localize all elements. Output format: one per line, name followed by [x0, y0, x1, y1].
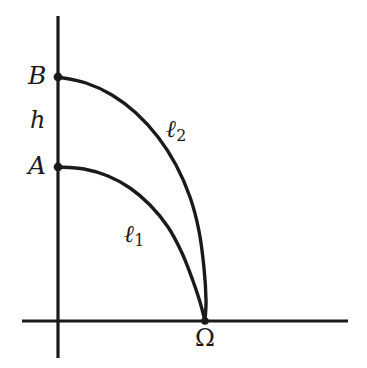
curve-l2 — [58, 77, 206, 321]
label-curve-l1: ℓ1 — [124, 222, 144, 249]
label-point-a: A — [28, 153, 46, 178]
point-a-marker — [54, 163, 63, 172]
diagram-svg — [0, 0, 367, 368]
label-curve-l2-subscript: 2 — [176, 126, 186, 145]
point-b-marker — [54, 73, 63, 82]
label-curve-l2-base: ℓ — [166, 115, 176, 143]
label-point-a-text: A — [28, 151, 46, 180]
curves-group — [58, 77, 206, 321]
label-height-h: h — [30, 108, 45, 132]
label-point-omega-text: Ω — [195, 324, 215, 352]
label-point-b: B — [28, 63, 46, 88]
label-curve-l1-subscript: 1 — [134, 231, 144, 250]
figure-canvas: B h A ℓ1 ℓ2 Ω — [0, 0, 367, 368]
label-curve-l1-base: ℓ — [124, 220, 134, 248]
label-height-h-text: h — [30, 106, 45, 134]
label-point-omega: Ω — [195, 326, 215, 350]
label-point-b-text: B — [28, 61, 46, 90]
label-curve-l2: ℓ2 — [166, 117, 186, 144]
